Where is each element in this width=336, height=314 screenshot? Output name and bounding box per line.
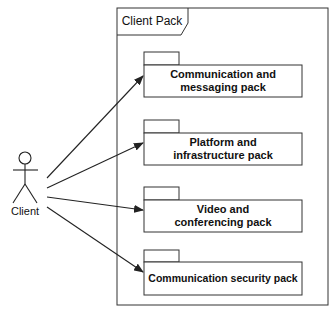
package-label-security: Communication security pack <box>144 263 302 294</box>
package-label-messaging: Communication and messaging pack <box>144 66 302 96</box>
actor-client-icon <box>13 152 38 203</box>
package-label-platform: Platform and infrastructure pack <box>144 134 302 164</box>
client-pack-label: Client Pack <box>117 14 187 28</box>
actor-label: Client <box>0 205 50 217</box>
package-label-video: Video and conferencing pack <box>144 201 302 231</box>
